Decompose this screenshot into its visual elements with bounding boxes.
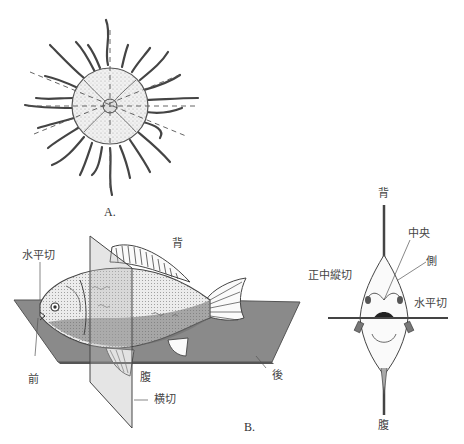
label-median-sagittal-section: 正中縱切: [308, 270, 352, 281]
transverse-section-plane: [90, 236, 132, 428]
fish-front-illustration: [328, 205, 448, 415]
label-lateral: 側: [426, 256, 437, 267]
label-transverse-section: 横切: [154, 394, 176, 405]
label-horizontal-section-front: 水平切: [414, 298, 447, 309]
label-horizontal-section-side: 水平切: [22, 250, 55, 261]
label-dorsal-front: 背: [378, 188, 389, 199]
panel-b-caption: B.: [244, 420, 255, 435]
label-dorsal-side: 背: [172, 238, 183, 249]
label-ventral-side: 腹: [140, 372, 151, 383]
label-posterior: 後: [272, 370, 283, 381]
tail-fin: [206, 278, 246, 320]
panel-a-caption: A.: [104, 205, 116, 220]
figure-canvas: [0, 0, 464, 444]
label-ventral-front: 腹: [378, 420, 389, 431]
label-anterior: 前: [28, 374, 39, 385]
jellyfish-illustration: [25, 20, 198, 195]
label-median: 中央: [408, 228, 430, 239]
